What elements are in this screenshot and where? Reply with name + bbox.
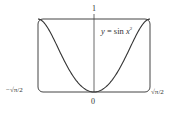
x-tick-left: −√π/2 <box>6 87 23 94</box>
x-tick-right: √π/2 <box>151 89 164 96</box>
plot-canvas <box>0 0 175 117</box>
eq-sup: 2 <box>130 26 133 31</box>
x-tick-zero: 0 <box>91 98 95 106</box>
equation-label: y = sin x2 <box>101 26 132 35</box>
y-tick-1: 1 <box>92 5 96 13</box>
eq-mid: = sin <box>105 26 126 36</box>
